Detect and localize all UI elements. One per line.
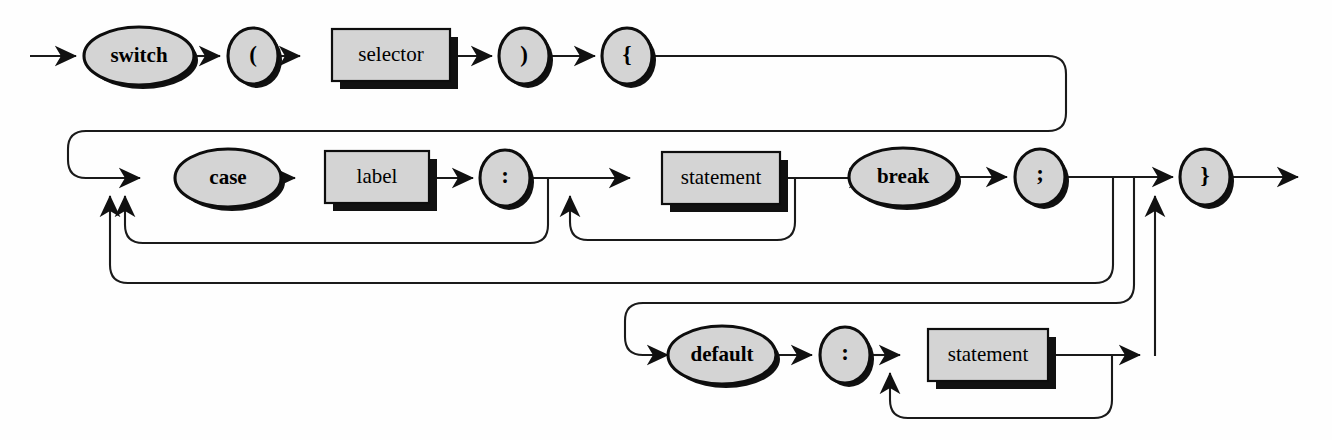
colon-default-label: :: [841, 340, 849, 365]
node-right-paren[interactable]: ): [499, 28, 553, 88]
left-brace-label: {: [622, 42, 631, 67]
railroad-diagram-svg: switch ( selector ) {: [0, 0, 1332, 440]
node-colon-case[interactable]: :: [480, 150, 534, 210]
right-brace-label: }: [1200, 163, 1209, 188]
node-left-paren[interactable]: (: [228, 28, 282, 88]
semicolon-label: ;: [1036, 161, 1044, 186]
switch-label: switch: [110, 43, 167, 67]
colon-case-label: :: [501, 163, 509, 188]
node-right-brace[interactable]: }: [1180, 149, 1234, 209]
node-statement-case[interactable]: statement: [662, 152, 788, 212]
statement-case-label: statement: [681, 165, 762, 189]
node-label[interactable]: label: [325, 151, 437, 211]
right-paren-label: ): [520, 42, 528, 67]
case-label: case: [209, 165, 246, 189]
node-left-brace[interactable]: {: [602, 28, 656, 88]
node-switch[interactable]: switch: [84, 27, 198, 89]
selector-label: selector: [358, 42, 423, 66]
left-paren-label: (: [249, 42, 257, 67]
label-text: label: [357, 164, 398, 188]
statement-default-label: statement: [948, 342, 1029, 366]
break-label: break: [877, 164, 929, 188]
node-semicolon[interactable]: ;: [1015, 149, 1069, 209]
node-colon-default[interactable]: :: [820, 327, 874, 387]
node-selector[interactable]: selector: [332, 29, 458, 89]
syntax-diagram-canvas: switch ( selector ) {: [0, 0, 1332, 440]
default-label: default: [691, 342, 754, 366]
node-break[interactable]: break: [849, 148, 961, 210]
node-case[interactable]: case: [175, 149, 285, 211]
node-default[interactable]: default: [668, 326, 780, 388]
node-statement-default[interactable]: statement: [928, 329, 1056, 389]
